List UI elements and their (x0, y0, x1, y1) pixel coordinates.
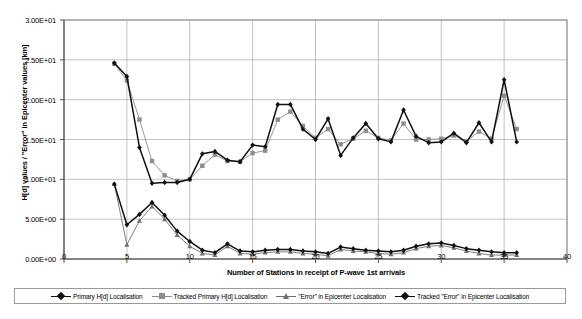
legend-diamond-icon (51, 292, 71, 301)
y-axis-title: H[d] values / "Error" in Epicenter value… (20, 3, 29, 243)
x-tick-label: 5 (125, 252, 129, 261)
legend-item: Tracked Primary H[d] Localisation (152, 292, 268, 301)
y-tick-label: 1.00E+01 (25, 175, 56, 184)
x-tick-label: 15 (249, 252, 257, 261)
y-tick-label: 1.50E+01 (25, 135, 56, 144)
y-tick-label: 5.00E+00 (25, 215, 56, 224)
legend-label: Primary H[d] Localisation (73, 293, 143, 300)
y-tick-label: 0.00E+00 (25, 255, 56, 264)
y-tick-label: 2.00E+01 (25, 95, 56, 104)
chart-screenshot: 0.00E+005.00E+001.00E+011.50E+012.00E+01… (0, 0, 582, 319)
legend-item: Primary H[d] Localisation (51, 292, 143, 301)
legend-label: "Error" in Epicenter Localisation (298, 293, 386, 300)
x-tick-label: 25 (374, 252, 382, 261)
x-tick-label: 35 (500, 252, 508, 261)
legend-item: "Error" in Epicenter Localisation (276, 292, 386, 301)
x-axis-title: Number of Stations in receipt of P-wave … (65, 268, 567, 277)
x-tick-label: 0 (62, 252, 66, 261)
legend-diamond-icon (395, 292, 415, 301)
y-tick-label: 2.50E+01 (25, 55, 56, 64)
legend-label: Tracked "Error" in Epicenter Localisatio… (417, 293, 529, 300)
x-tick-label: 40 (563, 252, 571, 261)
legend-item: Tracked "Error" in Epicenter Localisatio… (395, 292, 529, 301)
chart-legend: Primary H[d] LocalisationTracked Primary… (14, 288, 566, 304)
legend-square-icon (152, 292, 172, 301)
chart-area: 0.00E+005.00E+001.00E+011.50E+012.00E+01… (0, 0, 582, 282)
x-tick-label: 30 (437, 252, 445, 261)
legend-label: Tracked Primary H[d] Localisation (174, 293, 268, 300)
plot-svg (0, 0, 582, 282)
y-tick-label: 3.00E+01 (25, 16, 56, 25)
x-tick-label: 20 (312, 252, 320, 261)
x-tick-label: 10 (186, 252, 194, 261)
legend-triangle-icon (276, 292, 296, 301)
